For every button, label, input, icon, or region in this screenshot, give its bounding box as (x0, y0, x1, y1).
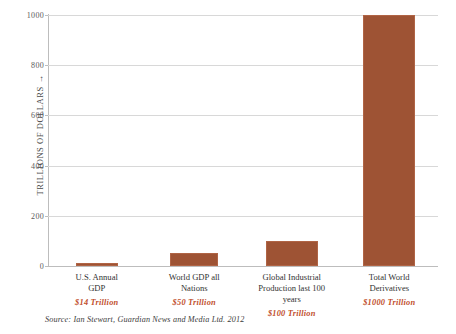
y-tick-mark (45, 115, 48, 116)
category-label-line: World GDP all (139, 272, 249, 283)
bar (266, 241, 318, 266)
category-label: World GDP allNations$50 Trillion (139, 272, 249, 308)
category-value-label: $14 Trillion (42, 297, 152, 308)
y-tick-label: 800 (31, 61, 44, 70)
category-label-line: Nations (139, 283, 249, 294)
category-label-line: Total World (334, 272, 444, 283)
bar (363, 15, 415, 266)
y-tick-mark (45, 65, 48, 66)
category-label: U.S. AnnualGDP$14 Trillion (42, 272, 152, 308)
bar (76, 263, 118, 267)
category-value-label: $50 Trillion (139, 297, 249, 308)
plot-area: 02004006008001000 (48, 15, 438, 266)
y-tick-label: 0 (40, 262, 44, 271)
category-label-line: U.S. Annual (42, 272, 152, 283)
y-tick-label: 1000 (27, 11, 44, 20)
category-label-line: years (237, 294, 347, 305)
y-tick-mark (45, 15, 48, 16)
category-label-line: Global Industrial (237, 272, 347, 283)
category-label-line: Derivatives (334, 283, 444, 294)
category-value-label: $100 Trillion (237, 308, 347, 319)
category-label-line: GDP (42, 283, 152, 294)
x-axis-line (48, 266, 438, 267)
y-tick-mark (45, 266, 48, 267)
category-label: Global IndustrialProduction last 100year… (237, 272, 347, 319)
bar (170, 253, 218, 266)
category-value-label: $1000 Trillion (334, 297, 444, 308)
source-note: Source: Ian Stewart, Guardian News and M… (45, 315, 244, 324)
y-tick-mark (45, 166, 48, 167)
category-label: Total WorldDerivatives$1000 Trillion (334, 272, 444, 308)
bar-chart: TRILLIONS OF DOLLARS → 02004006008001000… (0, 0, 456, 334)
y-tick-label: 400 (31, 161, 44, 170)
y-tick-label: 600 (31, 111, 44, 120)
y-tick-mark (45, 216, 48, 217)
y-tick-label: 200 (31, 211, 44, 220)
category-label-line: Production last 100 (237, 283, 347, 294)
